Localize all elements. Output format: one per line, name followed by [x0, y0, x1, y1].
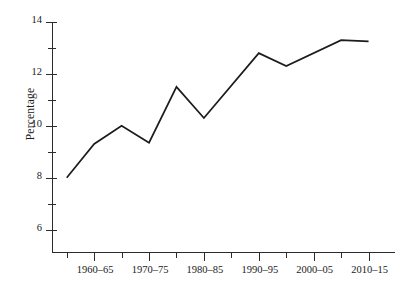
y-axis-tick-minor: [48, 152, 56, 153]
y-axis-tick-minor: [48, 100, 56, 101]
x-axis-tick-label: 1980–85: [187, 264, 224, 275]
y-axis-tick-label: 12: [32, 67, 43, 78]
x-axis-tick-minor: [67, 252, 68, 258]
y-axis-tick-major: 12: [46, 74, 57, 75]
y-axis-tick-label: 10: [32, 119, 43, 130]
y-axis-tick-label: 8: [37, 171, 42, 182]
x-axis-tick-major: 1960–65: [94, 252, 95, 261]
x-axis-tick-minor: [341, 252, 342, 258]
x-axis-tick-minor: [176, 252, 177, 258]
x-axis-tick-minor: [122, 252, 123, 258]
y-axis-tick-label: 14: [32, 15, 43, 26]
y-axis-tick-label: 6: [37, 223, 42, 234]
x-axis-tick-major: 1990–95: [259, 252, 260, 261]
x-axis-tick-major: 1980–85: [204, 252, 205, 261]
x-axis-tick-major: 2000–05: [314, 252, 315, 261]
line-chart: Percentage 681012141960–651970–751980–85…: [0, 0, 406, 290]
plot-area: 681012141960–651970–751980–851990–952000…: [52, 22, 395, 253]
y-axis-tick-minor: [48, 204, 56, 205]
y-axis-tick-major: 14: [46, 22, 57, 23]
x-axis-tick-label: 1970–75: [132, 264, 169, 275]
x-axis-tick-label: 2010–15: [351, 264, 388, 275]
x-axis-tick-label: 1990–95: [241, 264, 278, 275]
x-axis-tick-major: 1970–75: [149, 252, 150, 261]
x-axis-tick-minor: [286, 252, 287, 258]
x-axis-tick-label: 2000–05: [296, 264, 333, 275]
y-axis-tick-major: 10: [46, 126, 57, 127]
x-axis-tick-minor: [231, 252, 232, 258]
y-axis-tick-major: 6: [46, 230, 57, 231]
series-line-percentage: [53, 22, 396, 253]
x-axis-tick-major: 2010–15: [369, 252, 370, 261]
x-axis-tick-label: 1960–65: [77, 264, 114, 275]
y-axis-tick-minor: [48, 48, 56, 49]
y-axis-tick-major: 8: [46, 178, 57, 179]
